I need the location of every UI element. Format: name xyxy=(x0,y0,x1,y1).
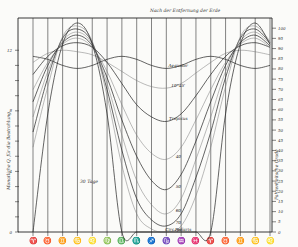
series-label: 10°45' xyxy=(171,83,185,88)
x-tick-label: ♌ xyxy=(88,236,97,245)
x-tick-label: ♍ xyxy=(103,236,112,245)
x-tick-label: ♊ xyxy=(58,236,67,245)
series-label: 40 xyxy=(175,154,182,159)
x-tick-label: ♌ xyxy=(266,236,275,245)
right-tick-label: 95 xyxy=(278,36,284,41)
x-tick-label: ♋ xyxy=(251,236,260,245)
right-tick-label: 10 xyxy=(278,209,284,214)
series-label: Tropicus xyxy=(169,116,188,121)
x-tick-label: ♒ xyxy=(177,236,186,245)
x-tick-label: ♓ xyxy=(191,236,200,245)
series-label: 50 xyxy=(176,184,182,189)
right-tick-label: 5 xyxy=(278,219,281,224)
x-tick-label: ♏ xyxy=(132,236,141,245)
left-axis-title: Monatliche Q. für die Bestrahlung xyxy=(6,112,11,191)
x-tick-label: ♉ xyxy=(43,236,52,245)
chart-title: Nach der Entfernung der Erde xyxy=(149,8,221,13)
series-labels: Aequator10°45'Tropicus40506070Circ. pola… xyxy=(165,63,191,232)
right-tick-label: 55 xyxy=(278,117,284,122)
right-tick-label: 100 xyxy=(278,26,286,31)
series-label: Pol xyxy=(174,227,182,232)
left-tick-label: 0 xyxy=(9,230,12,235)
right-tick-label: 60 xyxy=(278,107,284,112)
right-axis-title: Fahrenheitsche Grade xyxy=(274,149,279,201)
right-ticks: 0510152025303540455055606570758085909510… xyxy=(272,26,286,235)
series-label: 70 xyxy=(176,220,182,225)
axes xyxy=(18,18,272,232)
series-label: Aequator xyxy=(168,63,190,68)
series-label: 60 xyxy=(176,208,182,213)
x-tick-label: ♋ xyxy=(73,236,82,245)
left-tick-label: 12 xyxy=(7,48,13,53)
x-tick-label: ♈ xyxy=(29,236,38,245)
annotation-30-tage: 30 Tage xyxy=(80,179,98,184)
right-tick-label: 50 xyxy=(278,128,284,133)
x-ticks: ♈♉♊♋♌♍♎♏♐♑♒♓♈♉♊♋♌ xyxy=(29,236,275,245)
x-tick-label: ♎ xyxy=(117,236,126,245)
right-tick-label: 85 xyxy=(278,56,284,61)
x-tick-label: ♐ xyxy=(147,236,156,245)
x-tick-label: ♊ xyxy=(236,236,245,245)
chart: 04812 0510152025303540455055606570758085… xyxy=(0,0,298,247)
right-tick-label: 70 xyxy=(278,87,284,92)
right-tick-label: 65 xyxy=(278,97,284,102)
x-tick-label: ♑ xyxy=(162,236,171,245)
right-tick-label: 45 xyxy=(277,138,284,143)
right-tick-label: 80 xyxy=(278,66,284,71)
right-tick-label: 0 xyxy=(278,230,281,235)
x-tick-label: ♈ xyxy=(206,236,215,245)
right-tick-label: 90 xyxy=(278,46,284,51)
x-tick-label: ♉ xyxy=(221,236,230,245)
right-tick-label: 75 xyxy=(278,77,284,82)
